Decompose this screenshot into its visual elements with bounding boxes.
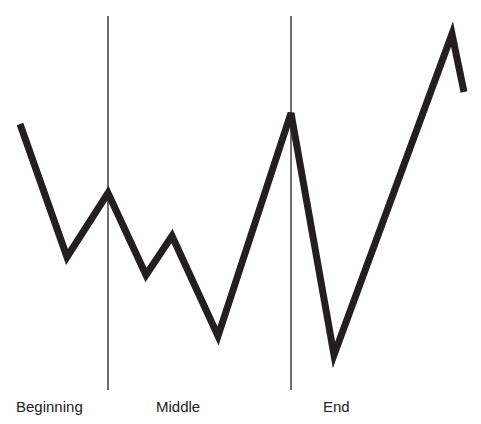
story-arc-diagram xyxy=(0,0,481,424)
label-middle: Middle xyxy=(156,398,200,415)
label-end: End xyxy=(323,398,350,415)
tension-line xyxy=(20,34,464,355)
label-beginning: Beginning xyxy=(16,398,83,415)
